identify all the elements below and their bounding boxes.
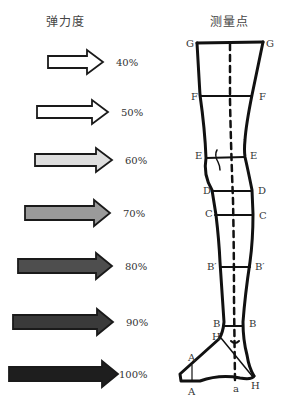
label-A-bottom: A	[187, 386, 196, 397]
knee-mark	[216, 150, 220, 170]
label-D-left: D	[203, 185, 211, 196]
elasticity-label-90pct: 90%	[126, 317, 148, 328]
label-H-left: H	[212, 331, 221, 342]
label-E-right: E	[250, 150, 257, 161]
label-B-prime-left: B′	[207, 261, 217, 272]
label-G-right: G	[266, 38, 274, 49]
label-B-prime-right: B′	[255, 261, 265, 272]
elasticity-arrow-90pct	[13, 309, 113, 335]
label-C-right: C	[259, 210, 267, 221]
elasticity-arrow-50pct	[37, 100, 108, 124]
elasticity-arrows	[9, 50, 118, 387]
center-dashed-line	[230, 44, 235, 380]
label-B-right: B	[249, 318, 256, 329]
elasticity-label-60pct: 60%	[125, 155, 147, 166]
label-H-right: H	[251, 380, 260, 391]
diagram-canvas: 40%50%60%70%80%90%100% G G F F	[0, 0, 286, 410]
elasticity-arrow-70pct	[25, 200, 110, 226]
label-B-left: B	[213, 318, 220, 329]
elasticity-label-80pct: 80%	[125, 261, 147, 272]
label-C-left: C	[205, 208, 213, 219]
elasticity-labels: 40%50%60%70%80%90%100%	[116, 57, 148, 380]
label-D-right: D	[258, 185, 266, 196]
elasticity-arrow-80pct	[18, 253, 112, 279]
label-F-right: F	[259, 91, 266, 102]
elasticity-arrow-60pct	[35, 148, 112, 172]
elasticity-arrow-40pct	[48, 50, 103, 74]
label-G-left: G	[186, 38, 194, 49]
elasticity-label-40pct: 40%	[116, 57, 138, 68]
label-A-top: A	[187, 352, 196, 363]
elasticity-label-100pct: 100%	[119, 369, 148, 380]
label-E-left: E	[195, 150, 202, 161]
elasticity-label-50pct: 50%	[121, 107, 143, 118]
label-F-left: F	[191, 91, 198, 102]
elasticity-arrow-100pct	[9, 361, 118, 387]
label-a: a	[233, 383, 239, 394]
line-E	[206, 157, 245, 158]
elasticity-label-70pct: 70%	[123, 208, 145, 219]
